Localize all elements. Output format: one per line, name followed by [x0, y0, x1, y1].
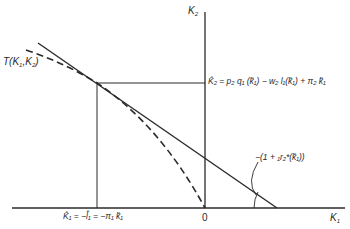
k1-axis-label: K1	[330, 213, 340, 224]
k2-axis-label: K2	[188, 6, 198, 17]
diagram-canvas	[0, 0, 350, 229]
origin-label: 0	[202, 213, 208, 223]
transformation-curve	[26, 50, 205, 208]
tangent-line	[38, 43, 277, 208]
transformation-curve-label: T(K1,K2)	[3, 57, 39, 68]
k2-hat-equation-label: K̂₂ = p₂ q₁ (k̂₁) − w₂ l₁(k̂₁) + π₂ k̂₁	[208, 77, 326, 86]
slope-pointer	[251, 162, 258, 195]
k1-hat-equation-label: K̂₁ = −l̂₁ = −π₁ k̂₁	[63, 212, 123, 221]
slope-label: −(1 + ₁r₂*(k̂₁))	[255, 153, 305, 162]
